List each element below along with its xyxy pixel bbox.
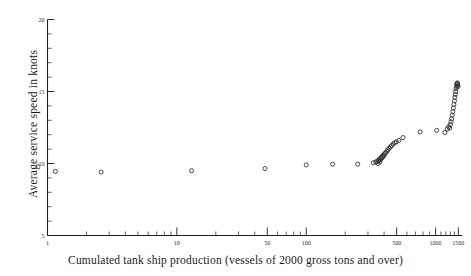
svg-text:50: 50 — [264, 240, 270, 246]
svg-text:100: 100 — [302, 240, 311, 246]
svg-text:1: 1 — [46, 240, 49, 246]
chart-figure: Average service speed in knots Cumulated… — [0, 0, 471, 276]
scatter-plot-canvas: 51015201105010050010001500 — [0, 0, 471, 276]
svg-text:15: 15 — [39, 89, 45, 95]
svg-text:500: 500 — [392, 240, 401, 246]
svg-text:1000: 1000 — [430, 240, 442, 246]
plot-axes — [48, 20, 463, 236]
svg-text:5: 5 — [42, 233, 45, 239]
svg-text:20: 20 — [39, 17, 45, 23]
axis-ticks — [48, 20, 459, 236]
data-points — [53, 81, 460, 174]
y-axis-label: Average service speed in knots — [27, 29, 39, 219]
x-axis-label: Cumulated tank ship production (vessels … — [0, 254, 471, 266]
svg-text:10: 10 — [174, 240, 180, 246]
svg-text:1500: 1500 — [452, 240, 464, 246]
svg-text:10: 10 — [39, 161, 45, 167]
axis-tick-labels: 51015201105010050010001500 — [39, 17, 465, 246]
